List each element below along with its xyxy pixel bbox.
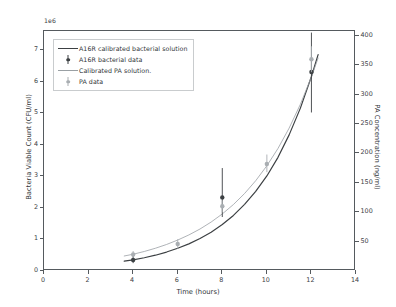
y-axis-tick-label-left: 6 — [17, 77, 38, 85]
axis-tick-mark — [40, 207, 44, 208]
legend-item-label: A16R calibrated bacterial solution — [79, 45, 188, 52]
x-axis-tick-label: 10 — [262, 276, 270, 284]
axis-tick-mark — [355, 270, 356, 274]
x-axis-tick-label: 2 — [86, 276, 90, 284]
y-axis-tick-label-right: 100 — [361, 207, 373, 215]
y-axis-tick-label-right: 150 — [361, 178, 373, 186]
legend-errorbar-marker-icon — [63, 54, 74, 65]
legend-item: A16R calibrated bacterial solution — [57, 43, 188, 54]
x-axis-tick-label: 8 — [219, 276, 223, 284]
y-axis-tick-label-left: 0 — [17, 266, 38, 274]
axis-tick-mark — [355, 94, 359, 95]
axis-tick-mark — [132, 270, 133, 274]
axis-tick-mark — [40, 81, 44, 82]
y-axis-tick-label-left: 3 — [17, 171, 38, 179]
y-axis-title-right: PA Concentration (ng/ml) — [373, 62, 381, 232]
axis-tick-mark — [40, 144, 44, 145]
data-point — [131, 252, 135, 256]
data-point — [131, 258, 135, 262]
y-axis-exponent-label: 1e6 — [44, 17, 56, 24]
axis-tick-mark — [355, 35, 359, 36]
data-point — [220, 204, 224, 208]
data-point — [265, 162, 269, 166]
legend-item-label: PA data — [79, 78, 103, 85]
legend-errorbar-marker-icon — [63, 76, 74, 87]
y-axis-tick-label-left: 5 — [17, 108, 38, 116]
axis-tick-mark — [266, 270, 267, 274]
axis-tick-mark — [40, 49, 44, 50]
chart-figure: 1e6 Time (hours) Bacteria Viable Count (… — [0, 0, 396, 307]
axis-tick-mark — [310, 270, 311, 274]
legend-item: PA data — [57, 76, 188, 87]
legend-marker-swatch — [57, 76, 79, 87]
data-point — [309, 57, 313, 61]
y-axis-tick-label-left: 1 — [17, 234, 38, 242]
axis-tick-mark — [355, 241, 359, 242]
data-point — [220, 195, 224, 199]
axis-tick-mark — [40, 270, 44, 271]
legend-line-icon — [58, 70, 78, 71]
x-axis-tick-label: 6 — [175, 276, 179, 284]
x-axis-tick-label: 12 — [306, 276, 314, 284]
y-axis-tick-label-right: 50 — [361, 237, 369, 245]
y-axis-tick-label-left: 4 — [17, 140, 38, 148]
legend-item-label: Calibrated PA solution. — [79, 67, 151, 74]
y-axis-tick-label-right: 200 — [361, 148, 373, 156]
y-axis-tick-label-right: 400 — [361, 31, 373, 39]
legend-line-icon — [58, 48, 78, 49]
legend-marker-swatch — [57, 54, 79, 65]
x-axis-tick-label: 14 — [351, 276, 359, 284]
axis-tick-mark — [40, 112, 44, 113]
axis-tick-mark — [355, 123, 359, 124]
y-axis-tick-label-left: 7 — [17, 45, 38, 53]
legend-dot-icon — [66, 58, 70, 62]
legend-item: A16R bacterial data — [57, 54, 188, 65]
axis-tick-mark — [221, 270, 222, 274]
axis-tick-mark — [355, 182, 359, 183]
axis-tick-mark — [40, 238, 44, 239]
axis-tick-mark — [88, 270, 89, 274]
axis-tick-mark — [355, 152, 359, 153]
legend-dot-icon — [66, 80, 70, 84]
y-axis-tick-label-right: 350 — [361, 60, 373, 68]
axis-tick-mark — [40, 175, 44, 176]
legend-line-swatch — [57, 43, 79, 54]
x-axis-tick-label: 4 — [130, 276, 134, 284]
x-axis-title: Time (hours) — [0, 288, 396, 296]
y-axis-tick-label-right: 300 — [361, 90, 373, 98]
legend-line-swatch — [57, 65, 79, 76]
axis-tick-mark — [43, 270, 44, 274]
x-axis-tick-label: 0 — [41, 276, 45, 284]
y-axis-tick-label-left: 2 — [17, 203, 38, 211]
axis-tick-mark — [355, 64, 359, 65]
y-axis-tick-label-right: 250 — [361, 119, 373, 127]
axis-tick-mark — [355, 211, 359, 212]
legend-item-label: A16R bacterial data — [79, 56, 142, 63]
data-point — [176, 242, 180, 246]
legend-item: Calibrated PA solution. — [57, 65, 188, 76]
chart-legend: A16R calibrated bacterial solutionA16R b… — [53, 39, 194, 91]
axis-tick-mark — [177, 270, 178, 274]
